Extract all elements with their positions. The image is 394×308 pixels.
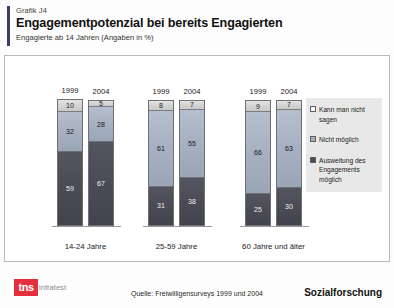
bar-segment-value: 30: [285, 203, 293, 210]
stacked-bar[interactable]: 96625: [245, 100, 271, 226]
bar-segment-bot[interactable]: 25: [246, 194, 270, 225]
legend-label: Kann man nicht sagen: [319, 105, 378, 124]
bar-segment-top[interactable]: 7: [277, 101, 301, 110]
bar-year-label: 1999: [148, 87, 174, 96]
chart-page: Grafik J4 Engagementpotenzial bei bereit…: [0, 0, 394, 308]
bar-segment-mid[interactable]: 28: [89, 107, 113, 142]
bar-segment-mid[interactable]: 32: [58, 112, 82, 152]
chart-subtitle: Engagierte ab 14 Jahren (Angaben in %): [16, 33, 154, 42]
stacked-bar[interactable]: 103259: [57, 99, 83, 226]
bar-segment-value: 25: [254, 206, 262, 213]
bar-segment-bot[interactable]: 31: [149, 187, 173, 225]
bar-segment-value: 7: [287, 101, 291, 108]
bar-segment-value: 59: [66, 185, 74, 192]
bar-segment-value: 9: [256, 103, 260, 110]
bar-segment-value: 38: [188, 198, 196, 205]
x-axis-group-label: 60 Jahre und älter: [227, 242, 320, 251]
stacked-bar[interactable]: 75538: [179, 100, 205, 226]
legend-swatch-white-icon: [310, 106, 316, 112]
chart-header: Grafik J4 Engagementpotenzial bei bereit…: [7, 6, 387, 50]
bar-year-label: 1999: [245, 87, 271, 96]
bar-segment-mid[interactable]: 66: [246, 112, 270, 194]
legend-item-kann-man-nicht-sagen: Kann man nicht sagen: [310, 105, 378, 124]
bar-segment-mid[interactable]: 61: [149, 111, 173, 187]
stacked-bar[interactable]: 86131: [148, 100, 174, 226]
legend-label: Nicht möglich: [319, 135, 359, 145]
bar-segment-value: 5: [99, 101, 103, 107]
bar-segment-value: 31: [157, 202, 165, 209]
chart-legend: Kann man nicht sagen Nicht möglich Auswe…: [306, 98, 382, 192]
bar-segment-value: 10: [66, 102, 74, 109]
bar-segment-top[interactable]: 7: [180, 101, 204, 110]
chart-footer: tns infratest Quelle: Freiwilligensurvey…: [0, 262, 394, 308]
bar-segment-value: 61: [157, 145, 165, 152]
bar-segment-top[interactable]: 9: [246, 101, 270, 112]
stacked-bar[interactable]: 52867: [88, 100, 114, 226]
bar-segment-value: 28: [97, 121, 105, 128]
axis-line: [143, 226, 212, 227]
stacked-bar[interactable]: 76330: [276, 100, 302, 226]
bar-segment-value: 66: [254, 149, 262, 156]
chart-kicker: Grafik J4: [16, 6, 47, 15]
legend-label: Ausweitung des Engagements möglich: [319, 156, 378, 185]
bar-segment-bot[interactable]: 67: [89, 142, 113, 225]
axis-line: [240, 226, 309, 227]
bar-segment-bot[interactable]: 59: [58, 152, 82, 225]
axis-line: [52, 226, 121, 227]
brand-tagline: Sozialforschung: [304, 287, 382, 298]
bar-year-label: 1999: [57, 86, 83, 95]
bar-segment-top[interactable]: 8: [149, 101, 173, 111]
bar-segment-mid[interactable]: 63: [277, 110, 301, 188]
bar-year-label: 2004: [276, 87, 302, 96]
bar-year-label: 2004: [88, 87, 114, 96]
x-axis-group-label: 14-24 Jahre: [39, 242, 132, 251]
bar-segment-value: 8: [159, 102, 163, 109]
bar-segment-bot[interactable]: 38: [180, 178, 204, 225]
bar-segment-value: 67: [97, 180, 105, 187]
legend-item-nicht-moeglich: Nicht möglich: [310, 135, 378, 145]
legend-item-ausweitung-moeglich: Ausweitung des Engagements möglich: [310, 156, 378, 185]
page-title: Engagementpotenzial bei bereits Engagier…: [16, 16, 282, 30]
bar-segment-value: 63: [285, 145, 293, 152]
bar-segment-value: 7: [190, 101, 194, 108]
bar-segment-mid[interactable]: 55: [180, 110, 204, 178]
chart-frame: 199910325920045286714-24 Jahre1999861312…: [4, 55, 390, 262]
x-axis-group-label: 25-59 Jahre: [130, 242, 223, 251]
title-accent-bar: [7, 6, 10, 46]
bar-segment-bot[interactable]: 30: [277, 188, 301, 225]
bar-segment-top[interactable]: 10: [58, 100, 82, 112]
legend-swatch-dark-icon: [310, 157, 316, 163]
legend-swatch-blue-gray-icon: [310, 136, 316, 142]
bar-year-label: 2004: [179, 87, 205, 96]
bar-segment-value: 32: [66, 128, 74, 135]
bar-segment-value: 55: [188, 140, 196, 147]
